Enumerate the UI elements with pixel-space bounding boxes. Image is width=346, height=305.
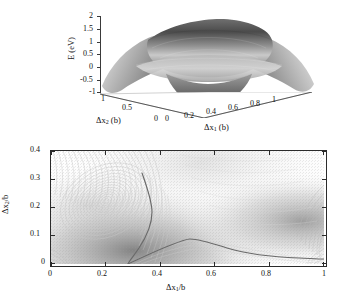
z-tick-label: 1.5 <box>83 25 93 33</box>
y-tick-label: 0 <box>41 258 45 266</box>
contour-y-axis-label: Δx2/b <box>0 202 36 214</box>
x1-tick-label: 0.2 <box>184 112 194 120</box>
x-tick-mark <box>105 262 106 266</box>
z-tick-label: 0 <box>89 63 93 71</box>
contour-graphic <box>51 151 324 264</box>
y-tick-mark <box>322 179 326 180</box>
x-tick-mark <box>214 151 215 155</box>
y-tick-mark <box>51 207 55 208</box>
x-tick-mark <box>160 151 161 155</box>
x-tick-label: 0.6 <box>206 270 216 278</box>
x-tick-label: 0.8 <box>261 270 271 278</box>
y-tick-label: 0.1 <box>30 230 40 238</box>
y-tick-mark <box>51 179 55 180</box>
y-tick-label: 0.3 <box>30 174 40 182</box>
x-tick-mark <box>160 262 161 266</box>
contour-x-label-suffix: /b <box>179 282 186 292</box>
x-tick-mark <box>269 151 270 155</box>
z-tick-label: 2 <box>89 12 93 20</box>
x1-tick-label: 0 <box>165 115 169 123</box>
y-tick-mark <box>51 263 55 264</box>
x1-tick-label: 0.6 <box>228 104 238 112</box>
x1-tick-label: 1 <box>272 96 276 104</box>
contour-plot-area <box>50 150 327 267</box>
x2-tick-label: 1 <box>101 95 105 103</box>
x1-tick-label: 0.8 <box>250 100 260 108</box>
surface-panel: 2 1.5 1 0.5 0 -0.5 -1 E (eV) <box>0 0 346 140</box>
z-tick-label: -1 <box>89 88 96 96</box>
x-tick-mark <box>214 262 215 266</box>
x2-tick-label: 0 <box>154 115 158 123</box>
y-tick-mark <box>322 151 326 152</box>
contour-y-label-suffix: /b <box>0 195 10 202</box>
x-tick-label: 0 <box>48 270 52 278</box>
x1-axis-label: Δx1 (b) <box>204 123 229 134</box>
contour-y-label-prefix: Δx <box>0 204 10 214</box>
x2-axis-label: Δx2 (b) <box>96 116 121 127</box>
x-tick-mark <box>269 262 270 266</box>
x-tick-mark <box>105 151 106 155</box>
x2-axis-label-prefix: Δx <box>96 115 106 125</box>
z-tick-label: -0.5 <box>80 76 93 84</box>
y-tick-mark <box>51 151 55 152</box>
x1-axis-label-prefix: Δx <box>204 122 214 132</box>
x-tick-label: 0.2 <box>97 270 107 278</box>
z-tick-mark <box>97 16 101 17</box>
contour-x-axis-label: Δx1/b <box>166 283 185 294</box>
x2-tick-label: 0.5 <box>122 104 132 112</box>
x1-axis-label-suffix: (b) <box>217 122 229 132</box>
contour-panel: 0.4 0.3 0.2 0.1 0 0 0.2 0.4 0.6 0.8 1 Δx… <box>0 140 346 305</box>
y-tick-mark <box>51 235 55 236</box>
y-tick-label: 0.4 <box>30 146 40 154</box>
y-tick-mark <box>322 235 326 236</box>
z-axis-label: E (eV) <box>66 50 100 60</box>
z-tick-label: 1 <box>89 38 93 46</box>
contour-y-label-sub: 2 <box>4 201 10 204</box>
y-tick-mark <box>322 263 326 264</box>
y-tick-mark <box>322 207 326 208</box>
figure-root: 2 1.5 1 0.5 0 -0.5 -1 E (eV) <box>0 0 346 305</box>
x1-tick-label: 0.4 <box>206 108 216 116</box>
x-tick-label: 0.4 <box>152 270 162 278</box>
contour-x-label-prefix: Δx <box>166 282 176 292</box>
x-tick-label: 1 <box>322 270 326 278</box>
x2-axis-label-suffix: (b) <box>109 115 121 125</box>
